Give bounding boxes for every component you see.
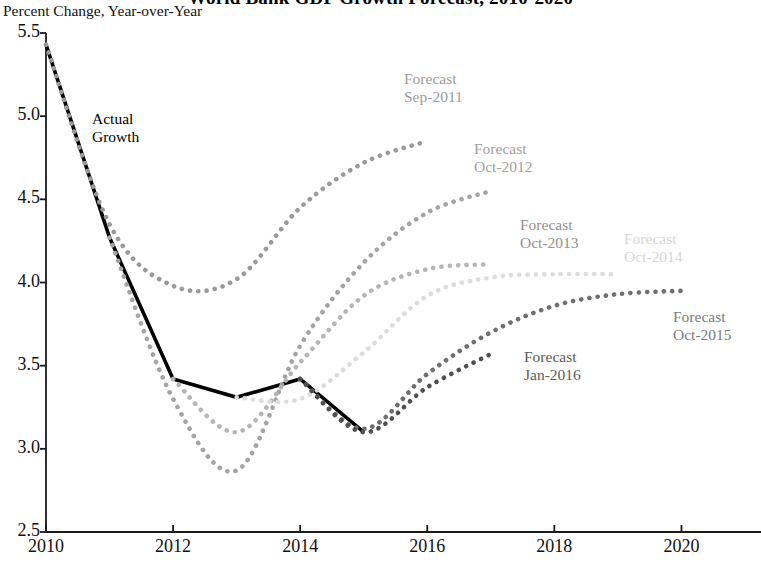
x-tick-label: 2010 — [11, 536, 81, 557]
y-tick-label: 4.5 — [0, 187, 40, 208]
x-tick-label: 2016 — [392, 536, 462, 557]
data-series-group — [46, 45, 681, 472]
annotation-line-2: Oct-2014 — [624, 248, 683, 266]
annotation-line-2: Sep-2011 — [404, 88, 463, 106]
annotation-line-1: Forecast — [673, 308, 726, 325]
y-tick-label: 5.5 — [0, 21, 40, 42]
x-tick-label: 2012 — [138, 536, 208, 557]
x-tick-label: 2018 — [519, 536, 589, 557]
series-forecast-jan-2016 — [300, 354, 491, 432]
annotation-line-2: Oct-2012 — [474, 158, 533, 176]
y-tick-label: 3.5 — [0, 354, 40, 375]
annotation-line-2: Growth — [92, 128, 139, 146]
series-actual-growth — [46, 45, 364, 433]
annotation-oct-2015: ForecastOct-2015 — [673, 308, 732, 345]
annotation-line-2: Oct-2013 — [520, 234, 579, 252]
annotation-jan-2016: ForecastJan-2016 — [524, 348, 581, 385]
annotation-line-2: Jan-2016 — [524, 366, 581, 384]
annotation-line-1: Forecast — [404, 70, 457, 87]
plot-area — [0, 0, 761, 569]
series-forecast-oct-2012 — [110, 191, 491, 472]
y-tick-label: 5.0 — [0, 104, 40, 125]
x-tick-label: 2020 — [646, 536, 716, 557]
annotation-oct-2013: ForecastOct-2013 — [520, 216, 579, 253]
annotation-oct-2012: ForecastOct-2012 — [474, 140, 533, 177]
annotation-line-1: Forecast — [524, 348, 577, 365]
y-tick-label: 4.0 — [0, 271, 40, 292]
annotation-line-1: Forecast — [624, 230, 677, 247]
y-tick-label: 3.0 — [0, 437, 40, 458]
annotation-sep-2011: ForecastSep-2011 — [404, 70, 463, 107]
annotation-line-1: Actual — [92, 110, 133, 127]
annotation-oct-2014: ForecastOct-2014 — [624, 230, 683, 267]
chart-container: World Bank GDP Growth Forecast, 2010-202… — [0, 0, 761, 569]
annotation-line-1: Forecast — [474, 140, 527, 157]
annotation-actual-growth: ActualGrowth — [92, 110, 139, 147]
annotation-line-2: Oct-2015 — [673, 326, 732, 344]
axis-ticks — [40, 33, 681, 532]
x-tick-label: 2014 — [265, 536, 335, 557]
annotation-line-1: Forecast — [520, 216, 573, 233]
axes — [46, 33, 761, 532]
